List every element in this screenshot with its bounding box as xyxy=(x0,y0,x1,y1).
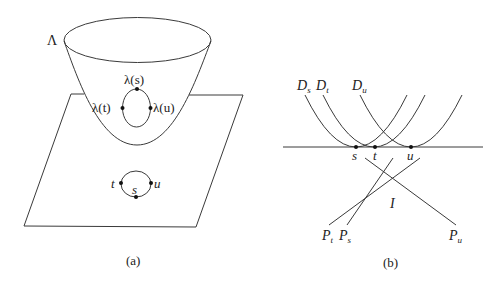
label-t-b: t xyxy=(373,148,377,163)
label-du: Du xyxy=(351,78,367,95)
figure-canvas: Λ λ(s) λ(t) λ(u) t s u (a) Ds Dt Du xyxy=(0,0,495,284)
paraboloid-rim xyxy=(64,18,211,63)
label-ds: Ds xyxy=(296,78,311,95)
line-ps xyxy=(347,158,393,225)
point-u xyxy=(149,181,153,185)
label-ps: Ps xyxy=(338,228,352,245)
label-lambda-t: λ(t) xyxy=(92,100,111,115)
point-lambda-s xyxy=(135,87,139,91)
label-region-i: I xyxy=(389,196,396,211)
label-u-b: u xyxy=(407,148,414,163)
line-pt xyxy=(329,158,420,225)
label-lambda-s: λ(s) xyxy=(124,72,144,87)
plane-outline xyxy=(24,94,243,227)
caption-a: (a) xyxy=(126,253,140,268)
label-t: t xyxy=(111,176,115,191)
upper-loop xyxy=(123,89,151,127)
curve-dt xyxy=(323,95,425,147)
panel-a: Λ λ(s) λ(t) λ(u) t s u (a) xyxy=(24,18,243,269)
point-lambda-u xyxy=(149,106,153,110)
label-u: u xyxy=(154,176,161,191)
point-lambda-t xyxy=(121,106,125,110)
label-pu: Pu xyxy=(448,228,463,245)
label-s-b: s xyxy=(352,148,357,163)
caption-b: (b) xyxy=(383,255,398,270)
line-pu xyxy=(365,158,456,225)
label-lambda-surface: Λ xyxy=(47,33,58,48)
panel-b: Ds Dt Du s t u I Pt Ps Pu (b) xyxy=(283,78,483,270)
label-s: s xyxy=(132,182,137,197)
label-pt: Pt xyxy=(321,228,334,245)
point-t xyxy=(119,181,123,185)
label-dt: Dt xyxy=(315,78,329,95)
paraboloid-body xyxy=(64,41,211,145)
figure-svg: Λ λ(s) λ(t) λ(u) t s u (a) Ds Dt Du xyxy=(0,0,495,284)
label-lambda-u: λ(u) xyxy=(153,100,174,115)
